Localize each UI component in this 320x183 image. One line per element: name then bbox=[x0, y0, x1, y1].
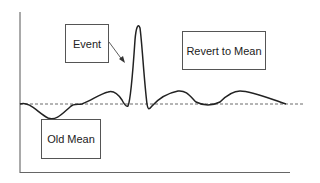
old-mean-label: Old Mean bbox=[47, 133, 95, 145]
event-label: Event bbox=[73, 38, 101, 50]
revert-label-box: Revert to Mean bbox=[182, 31, 266, 70]
event-label-box: Event bbox=[65, 24, 109, 63]
revert-label: Revert to Mean bbox=[186, 45, 261, 57]
old-mean-label-box: Old Mean bbox=[41, 119, 101, 159]
